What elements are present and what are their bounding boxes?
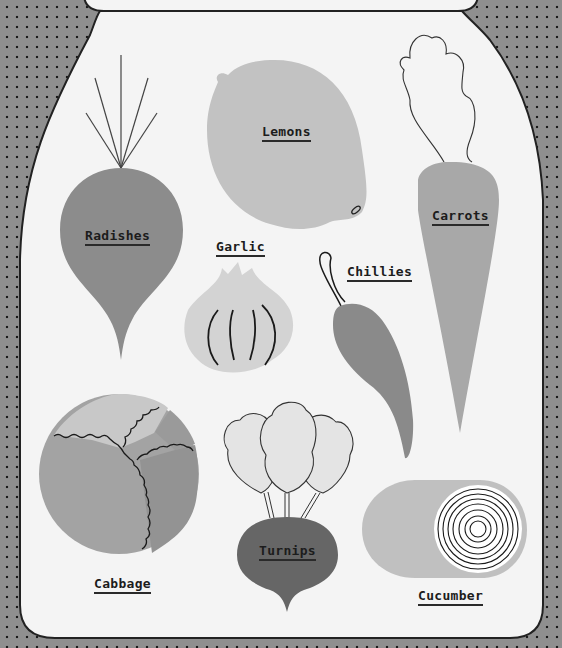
label-cucumber: Cucumber — [418, 588, 483, 606]
jar-lid — [84, 0, 478, 11]
label-carrots: Carrots — [432, 208, 489, 226]
label-radishes: Radishes — [85, 228, 150, 246]
pickle-jar-poster: Radishes Lemons Carrots Garlic Chillies … — [0, 0, 562, 648]
label-turnips: Turnips — [259, 543, 316, 561]
cabbage-illustration — [39, 394, 199, 554]
cucumber-illustration — [362, 480, 527, 578]
label-garlic: Garlic — [216, 239, 265, 257]
label-chillies: Chillies — [347, 264, 412, 282]
label-lemons: Lemons — [262, 124, 311, 142]
label-cabbage: Cabbage — [94, 576, 151, 594]
